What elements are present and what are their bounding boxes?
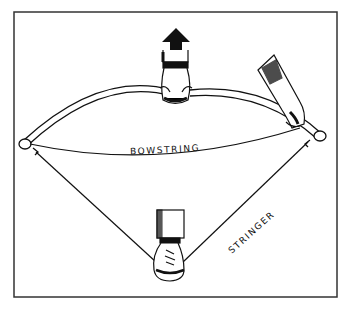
center-hand xyxy=(160,50,192,104)
stringer-label: STRINGER xyxy=(226,209,276,256)
bowstring-label: BOWSTRING xyxy=(130,143,201,157)
foot xyxy=(154,210,184,281)
right-hand xyxy=(258,55,305,128)
bow-stringing-illustration: BOWSTRING STRINGER xyxy=(0,0,346,310)
